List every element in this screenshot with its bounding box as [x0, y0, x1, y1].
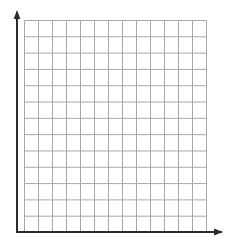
axis-lines [0, 0, 234, 247]
y-axis-arrowhead-icon [14, 10, 21, 19]
x-axis-arrowhead-icon [214, 229, 223, 236]
coordinate-grid-figure [0, 0, 234, 247]
axes-group [14, 10, 223, 235]
